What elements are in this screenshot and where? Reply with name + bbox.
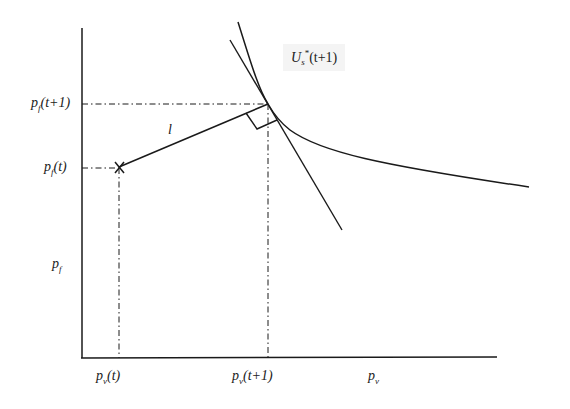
y-tick-pf-t: pf(t): [44, 159, 67, 177]
x-axis: [81, 357, 497, 358]
x-axis-label: pv: [368, 368, 379, 386]
indifference-curve: [238, 22, 529, 187]
y-tick-pf-t1: pf(t+1): [31, 95, 70, 113]
x-tick-pv-t: pv(t): [96, 368, 120, 386]
segment-l-label: l: [168, 122, 172, 138]
y-axis-label: pf: [52, 256, 62, 274]
curve-label-main: U: [291, 50, 301, 65]
x-tick-pv-t1: pv(t+1): [232, 368, 273, 386]
curve-label: Us*(t+1): [283, 44, 345, 71]
right-angle-marker: [246, 113, 277, 129]
curve-label-sub: s: [301, 57, 305, 67]
curve-label-arg: (t+1): [309, 50, 337, 65]
